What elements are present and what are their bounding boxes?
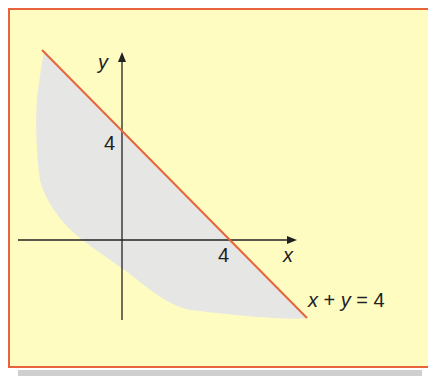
y-tick-label: 4	[104, 132, 115, 154]
x-axis-arrow-icon	[287, 236, 297, 244]
x-tick-label: 4	[218, 244, 229, 266]
y-axis-arrow-icon	[118, 52, 126, 62]
shaded-region	[36, 52, 307, 319]
equation-plus: +	[318, 289, 341, 311]
x-axis-label: x	[282, 244, 294, 266]
equation-label: x + y = 4	[307, 289, 385, 311]
y-axis-label: y	[96, 51, 109, 73]
equation-rest: = 4	[351, 289, 385, 311]
